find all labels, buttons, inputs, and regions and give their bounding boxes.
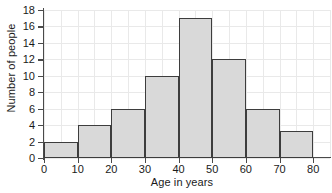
y-axis-tick	[38, 109, 43, 110]
histogram-bar	[179, 18, 213, 158]
x-axis-tick-label: 0	[29, 164, 59, 175]
x-axis-tick-label: 60	[231, 164, 261, 175]
gridline-horizontal	[44, 10, 330, 11]
y-axis-tick-label: 0	[9, 153, 35, 164]
y-axis-tick	[38, 125, 43, 126]
y-axis-tick-label: 6	[9, 104, 35, 115]
y-axis-tick	[38, 158, 43, 159]
y-axis-line	[43, 8, 44, 160]
x-axis-tick-label: 70	[265, 164, 295, 175]
y-axis-tick-label: 8	[9, 87, 35, 98]
y-axis-tick	[38, 142, 43, 143]
y-axis-tick-label: 16	[9, 21, 35, 32]
y-axis-tick	[38, 10, 43, 11]
y-axis-tick	[38, 76, 43, 77]
x-axis-tick-label: 10	[63, 164, 93, 175]
y-axis-tick-label: 14	[9, 38, 35, 49]
y-axis-tick-label: 10	[9, 71, 35, 82]
histogram-bar	[145, 76, 179, 158]
histogram-bar	[111, 109, 145, 158]
histogram-bar	[212, 59, 246, 158]
y-axis-tick	[38, 43, 43, 44]
gridline-vertical	[61, 10, 62, 158]
x-axis-tick-label: 40	[164, 164, 194, 175]
y-axis-tick	[38, 92, 43, 93]
histogram-bar	[246, 109, 280, 158]
histogram-chart: Number of people Age in years 0246810121…	[0, 0, 332, 193]
x-axis-tick-label: 30	[130, 164, 160, 175]
x-axis-tick-label: 50	[197, 164, 227, 175]
histogram-bar	[44, 142, 78, 158]
y-axis-tick-label: 18	[9, 5, 35, 16]
gridline-vertical	[330, 10, 331, 158]
histogram-bar	[78, 125, 112, 158]
y-axis-tick-label: 12	[9, 54, 35, 65]
gridline-vertical	[313, 10, 314, 158]
y-axis-tick	[38, 59, 43, 60]
x-axis-tick-label: 20	[96, 164, 126, 175]
y-axis-tick-label: 2	[9, 137, 35, 148]
x-axis-title: Age in years	[44, 176, 320, 188]
x-axis-tick-label: 80	[298, 164, 328, 175]
y-axis-tick-label: 4	[9, 120, 35, 131]
histogram-bar	[280, 131, 314, 158]
y-axis-tick	[38, 26, 43, 27]
